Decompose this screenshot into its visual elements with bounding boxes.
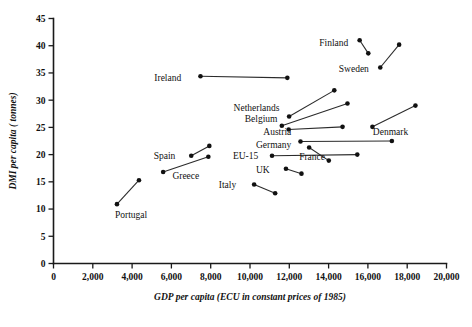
- point-label-finland: Finland: [319, 38, 348, 48]
- series-line-austria: [289, 127, 343, 130]
- series-line-netherlands: [289, 90, 334, 116]
- series-line-sweden: [380, 45, 399, 68]
- point-label-netherlands: Netherlands: [234, 103, 280, 113]
- data-point-sweden-0: [378, 65, 383, 70]
- data-point-eu-15-1: [355, 152, 360, 157]
- series-line-spain: [191, 146, 209, 156]
- y-tick-label-20: 20: [36, 150, 46, 160]
- x-tick-label-4000: 4,000: [121, 272, 143, 282]
- x-tick-label-12000: 12,000: [276, 272, 302, 282]
- y-tick-label-25: 25: [36, 123, 46, 133]
- point-label-italy: Italy: [219, 180, 237, 190]
- point-label-france: France: [299, 152, 325, 162]
- series-line-finland: [360, 40, 369, 53]
- x-tick-label-2000: 2,000: [82, 272, 104, 282]
- data-point-uk-1: [299, 171, 304, 176]
- data-point-portugal-0: [115, 202, 120, 207]
- x-tick-label-20000: 20,000: [433, 272, 459, 282]
- data-point-uk-0: [284, 166, 289, 171]
- point-label-belgium: Belgium: [245, 114, 278, 124]
- point-label-germany: Germany: [256, 140, 292, 150]
- data-point-eu-15-0: [270, 153, 275, 158]
- y-tick-label-10: 10: [36, 204, 46, 214]
- data-point-ireland-1: [285, 76, 290, 81]
- point-label-sweden: Sweden: [339, 64, 369, 74]
- point-label-spain: Spain: [154, 151, 176, 161]
- point-label-denmark: Denmark: [373, 127, 409, 137]
- x-tick-label-0: 0: [51, 272, 56, 282]
- data-point-germany-1: [390, 139, 395, 144]
- data-point-finland-0: [357, 38, 362, 43]
- data-point-greece-1: [206, 154, 211, 159]
- data-point-finland-1: [366, 51, 371, 56]
- series-line-italy: [254, 185, 275, 194]
- point-label-ireland: Ireland: [154, 73, 181, 83]
- y-tick-label-35: 35: [36, 68, 46, 78]
- point-label-portugal: Portugal: [115, 210, 148, 220]
- axes: 05101520253035404502,0004,0006,0008,0001…: [36, 14, 460, 282]
- series-line-denmark: [372, 106, 415, 127]
- x-tick-label-6000: 6,000: [161, 272, 183, 282]
- data-point-france-0: [307, 145, 312, 150]
- scatter-plot: 05101520253035404502,0004,0006,0008,0001…: [0, 0, 472, 327]
- data-point-ireland-0: [198, 74, 203, 79]
- point-labels: FinlandSwedenIrelandNetherlandsBelgiumAu…: [115, 38, 408, 220]
- series-line-germany: [301, 141, 392, 142]
- data-point-netherlands-1: [332, 88, 337, 93]
- y-tick-label-5: 5: [41, 232, 46, 242]
- data-point-france-1: [326, 158, 331, 163]
- point-label-eu-15: EU-15: [233, 151, 259, 161]
- data-point-greece-0: [161, 170, 166, 175]
- series-line-ireland: [200, 76, 287, 78]
- y-tick-label-45: 45: [36, 14, 46, 24]
- data-point-spain-0: [189, 153, 194, 158]
- data-point-sweden-1: [397, 42, 402, 47]
- x-tick-label-16000: 16,000: [355, 272, 381, 282]
- y-tick-label-30: 30: [36, 96, 46, 106]
- data-point-denmark-1: [413, 103, 418, 108]
- chart-figure: 05101520253035404502,0004,0006,0008,0001…: [0, 0, 472, 327]
- point-label-uk: UK: [256, 165, 270, 175]
- data-point-austria-1: [340, 125, 345, 130]
- data-point-portugal-1: [137, 178, 142, 183]
- data-point-belgium-1: [345, 101, 350, 106]
- point-label-austria: Austria: [263, 127, 292, 137]
- x-tick-label-18000: 18,000: [394, 272, 420, 282]
- x-tick-label-10000: 10,000: [237, 272, 263, 282]
- x-tick-label-8000: 8,000: [200, 272, 222, 282]
- x-axis-title: GDP per capita (ECU in constant prices o…: [154, 292, 346, 303]
- data-point-germany-0: [298, 139, 303, 144]
- series-line-portugal: [117, 180, 139, 204]
- data-point-spain-1: [207, 144, 212, 149]
- y-axis-title: DMI per capita ( tonnes): [8, 92, 19, 190]
- y-tick-label-0: 0: [41, 259, 46, 269]
- point-label-greece: Greece: [172, 171, 199, 181]
- data-point-italy-1: [273, 191, 278, 196]
- x-tick-label-14000: 14,000: [316, 272, 342, 282]
- y-tick-label-15: 15: [36, 177, 46, 187]
- series-line-uk: [286, 169, 302, 174]
- y-tick-label-40: 40: [36, 41, 46, 51]
- data-point-italy-0: [252, 182, 257, 187]
- data-point-netherlands-0: [287, 114, 292, 119]
